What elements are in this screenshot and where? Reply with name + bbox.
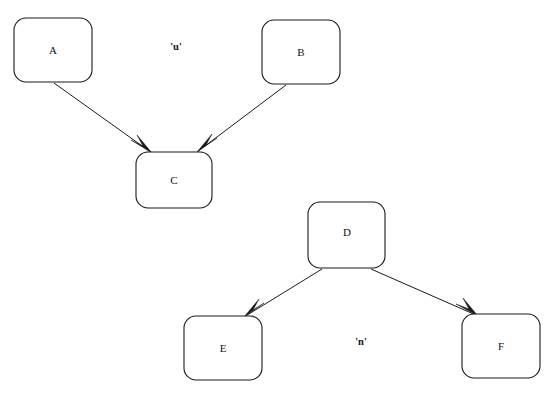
diagram-canvas: A B C D E F 'u'	[0, 0, 554, 397]
arrowhead-b-c	[197, 134, 217, 152]
node-c[interactable]: C	[136, 152, 212, 208]
node-group: A B C D E F	[14, 18, 540, 380]
node-f-label: F	[498, 340, 504, 352]
node-b-label: B	[297, 46, 304, 58]
node-e[interactable]: E	[184, 316, 262, 380]
node-d[interactable]: D	[308, 202, 385, 268]
node-c-label: C	[170, 174, 177, 186]
node-a-label: A	[49, 44, 57, 56]
edge-line-d-e	[244, 269, 322, 317]
edge-d-to-f[interactable]	[371, 269, 478, 316]
cluster-label-n: 'n'	[355, 336, 367, 347]
edge-line-d-f	[371, 269, 478, 316]
arrowhead-d-f	[456, 298, 478, 316]
edge-d-to-e[interactable]	[244, 269, 322, 317]
edge-line-a-c	[54, 83, 152, 153]
cluster-label-u: 'u'	[170, 41, 182, 52]
arrowhead-d-e	[244, 299, 264, 317]
edge-group	[54, 83, 478, 317]
graph-svg: A B C D E F 'u'	[0, 0, 554, 397]
edge-a-to-c[interactable]	[54, 83, 152, 153]
edge-b-to-c[interactable]	[197, 85, 286, 152]
node-b[interactable]: B	[262, 20, 340, 84]
node-f[interactable]: F	[462, 314, 540, 378]
node-d-label: D	[343, 226, 351, 238]
node-a[interactable]: A	[14, 18, 92, 82]
arrowhead-a-c	[131, 135, 152, 153]
node-e-label: E	[220, 342, 227, 354]
